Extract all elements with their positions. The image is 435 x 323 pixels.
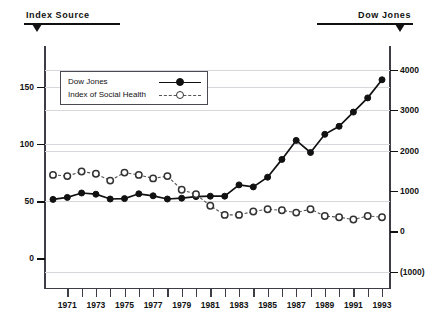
data-point-open <box>136 172 142 178</box>
data-point-open <box>250 208 256 214</box>
data-point-open <box>78 168 84 174</box>
legend-marker-filled-circle <box>176 78 184 86</box>
data-point-open <box>121 169 127 175</box>
data-point-filled <box>164 196 170 202</box>
legend-label-dow-jones: Dow Jones <box>68 77 108 86</box>
data-point-open <box>193 191 199 197</box>
data-point-filled <box>279 156 285 162</box>
data-point-open <box>322 213 328 219</box>
data-point-open <box>279 207 285 213</box>
data-point-open <box>222 212 228 218</box>
data-point-open <box>164 173 170 179</box>
data-point-filled <box>93 191 99 197</box>
data-point-filled <box>50 196 56 202</box>
data-point-filled <box>150 193 156 199</box>
data-point-filled <box>265 174 271 180</box>
data-point-filled <box>336 123 342 129</box>
data-point-open <box>307 206 313 212</box>
data-point-open <box>365 213 371 219</box>
data-point-open <box>179 187 185 193</box>
data-point-filled <box>293 137 299 143</box>
data-point-open <box>350 216 356 222</box>
data-point-open <box>93 171 99 177</box>
legend-key-index-of-social-health <box>159 90 201 100</box>
data-point-open <box>336 214 342 220</box>
data-point-open <box>293 209 299 215</box>
data-point-filled <box>250 184 256 190</box>
chart-container: Index Source Dow Jones 050100150 (1000)0… <box>0 0 435 323</box>
data-point-filled <box>236 182 242 188</box>
data-point-filled <box>122 196 128 202</box>
data-point-open <box>379 214 385 220</box>
data-point-open <box>236 212 242 218</box>
data-point-open <box>107 177 113 183</box>
series-layer <box>0 0 435 323</box>
legend-key-dow-jones <box>159 77 201 87</box>
data-point-filled <box>207 193 213 199</box>
data-point-filled <box>79 190 85 196</box>
data-point-filled <box>322 131 328 137</box>
data-point-filled <box>179 195 185 201</box>
data-point-filled <box>64 194 70 200</box>
data-point-open <box>64 173 70 179</box>
data-point-open <box>207 203 213 209</box>
data-point-filled <box>107 196 113 202</box>
legend-marker-open-circle <box>176 91 184 99</box>
data-point-filled <box>222 193 228 199</box>
data-point-filled <box>136 191 142 197</box>
legend-label-index-of-social-health: Index of Social Health <box>68 90 146 99</box>
data-point-filled <box>350 109 356 115</box>
data-point-filled <box>365 95 371 101</box>
data-point-filled <box>308 150 314 156</box>
data-point-filled <box>379 77 385 83</box>
data-point-open <box>150 175 156 181</box>
data-point-open <box>50 172 56 178</box>
data-point-open <box>264 206 270 212</box>
chart-legend: Dow Jones Index of Social Health <box>60 71 208 105</box>
